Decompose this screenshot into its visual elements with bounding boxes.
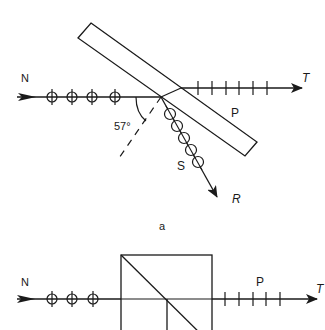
panel-b: N P T	[17, 255, 325, 330]
incident-beam-b	[17, 291, 121, 307]
transmitted-beam-b	[212, 292, 317, 306]
panel-a: N T P 57° S R a	[17, 23, 311, 232]
panel-a-caption: a	[159, 220, 166, 232]
angle-label: 57°	[114, 120, 131, 132]
transmitted-label-b: T	[316, 282, 325, 296]
glass-plate	[78, 23, 257, 156]
reflected-label: R	[232, 192, 241, 206]
figure: N T P 57° S R a	[0, 0, 325, 330]
p-label-b: P	[256, 275, 264, 289]
incident-label-b: N	[21, 276, 29, 288]
diagram-canvas: N T P 57° S R a	[0, 0, 325, 330]
transmitted-beam	[181, 81, 302, 95]
incident-label: N	[21, 72, 29, 84]
p-label: P	[231, 106, 239, 120]
transmitted-label: T	[302, 71, 311, 85]
incident-beam	[17, 89, 161, 105]
angle-arc	[136, 97, 146, 121]
s-label: S	[177, 159, 185, 173]
